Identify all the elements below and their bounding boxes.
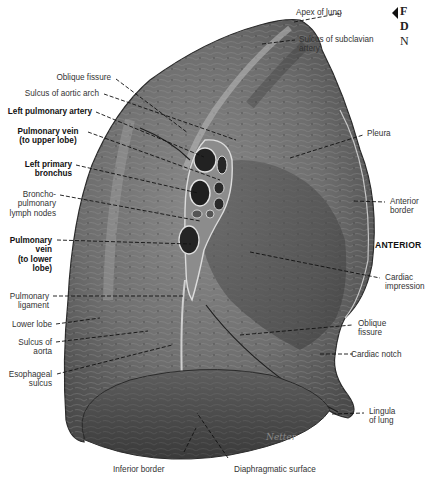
back-arrow-icon[interactable]: [392, 7, 398, 19]
label-sulcus-of-aorta: Sulcus ofaorta: [0, 338, 52, 357]
label-oblique-fissure-upper: Oblique fissure: [40, 73, 111, 82]
label-cardiac-impression: Cardiacimpression: [385, 273, 425, 292]
label-lower-lobe: Lower lobe: [0, 320, 52, 329]
label-apex-of-lung: Apex of lung: [296, 8, 342, 17]
label-esophageal-sulcus: Esophagealsulcus: [0, 370, 52, 389]
label-left-primary-bronchus: Left primarybronchus: [10, 160, 72, 179]
label-lingula-of-lung: Lingulaof lung: [369, 407, 395, 426]
artist-signature: Netter: [266, 432, 296, 442]
label-pulmonary-vein-lower: Pulmonaryvein(to lowerlobe): [0, 236, 52, 274]
figure-reference[interactable]: F D N: [400, 4, 409, 49]
label-diaphragmatic-surface: Diaphragmatic surface: [234, 465, 316, 474]
label-oblique-fissure-lower: Obliquefissure: [358, 319, 386, 338]
label-cardiac-notch: Cardiac notch: [351, 350, 402, 359]
bronchus-lumen: [190, 180, 210, 206]
label-sulcus-subclavian-artery: Sulcus of subclavianartery: [299, 35, 374, 54]
label-pulmonary-ligament: Pulmonaryligament: [0, 292, 49, 311]
label-inferior-border: Inferior border: [113, 465, 164, 474]
label-bronchopulmonary-lymph-nodes: Broncho-pulmonarylymph nodes: [0, 190, 56, 218]
label-anterior-border: Anteriorborder: [390, 197, 419, 216]
lung-body: [64, 20, 374, 460]
lung-illustration: [0, 0, 426, 478]
left-pulmonary-artery-lumen: [194, 148, 216, 172]
orientation-label: ANTERIOR: [375, 241, 421, 250]
pulmonary-vein-lower-lumen: [179, 226, 199, 254]
label-pleura: Pleura: [367, 129, 391, 138]
label-sulcus-aortic-arch: Sulcus of aortic arch: [10, 89, 99, 98]
label-left-pulmonary-artery: Left pulmonary artery: [0, 107, 92, 116]
label-pulmonary-vein-upper: Pulmonary vein(to upper lobe): [12, 127, 84, 146]
